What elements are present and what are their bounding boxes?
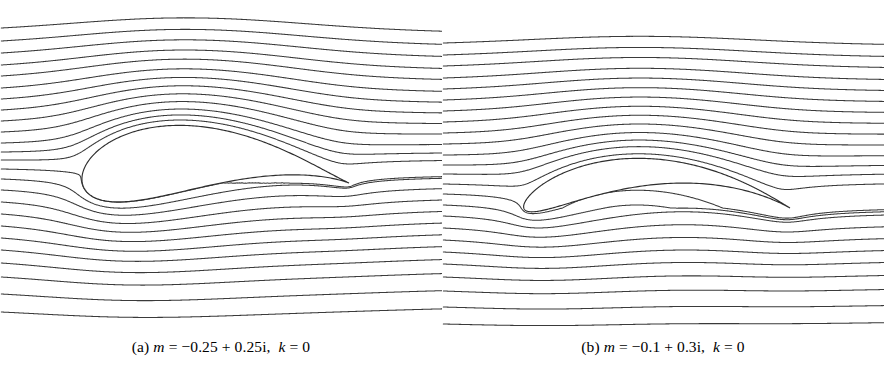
panel-b-caption-label: (b)	[581, 338, 599, 355]
streamline	[1, 247, 442, 262]
streamline	[1, 94, 442, 124]
streamline	[443, 323, 884, 326]
panel-b-caption-value-k: 0	[737, 338, 745, 355]
streamline	[1, 29, 442, 44]
panel-a-caption-value-m: −0.25 + 0.25i,	[181, 338, 270, 355]
streamline	[1, 200, 442, 224]
panel-a-plot	[0, 0, 442, 340]
panel-a-caption-var-k: k	[278, 338, 285, 355]
panel-b-caption-var-k: k	[713, 338, 720, 355]
streamline	[1, 309, 442, 318]
streamline	[1, 50, 442, 68]
streamline	[443, 276, 884, 281]
streamline	[443, 306, 884, 309]
panel-a-caption: (a) m = −0.25 + 0.25i, k = 0	[0, 338, 442, 357]
streamline	[443, 106, 884, 123]
streamline	[1, 223, 442, 242]
streamline	[443, 225, 884, 238]
streamline	[1, 40, 442, 57]
panel-a-streamline-canvas	[0, 0, 442, 340]
panel-a-caption-eq1: =	[169, 338, 178, 355]
streamline	[443, 47, 884, 56]
panel-b-caption-value-m: −0.1 + 0.3i,	[632, 338, 705, 355]
streamline	[443, 88, 884, 102]
streamline	[443, 57, 884, 67]
streamline-figure: (a) m = −0.25 + 0.25i, k = 0 (b) m = −0.…	[0, 0, 884, 387]
streamline	[1, 260, 442, 273]
streamline	[443, 237, 884, 247]
panel-b-caption: (b) m = −0.1 + 0.3i, k = 0	[442, 338, 884, 357]
streamline	[1, 211, 442, 232]
panel-a-caption-eq2: =	[289, 338, 298, 355]
panel-a-caption-label: (a)	[132, 338, 150, 355]
panel-b-airfoil	[524, 158, 790, 211]
streamline	[443, 78, 884, 90]
streamline	[1, 18, 442, 31]
streamline	[1, 102, 442, 135]
streamline	[1, 274, 442, 286]
panel-b-streamline-canvas	[442, 0, 884, 340]
panel-b: (b) m = −0.1 + 0.3i, k = 0	[442, 0, 884, 387]
streamline	[443, 36, 884, 44]
panel-b-caption-eq1: =	[619, 338, 628, 355]
streamline	[443, 250, 884, 258]
panel-a-caption-value-k: 0	[302, 338, 310, 355]
streamline	[1, 291, 442, 301]
panel-b-plot	[442, 0, 884, 340]
panel-a-airfoil	[82, 125, 349, 202]
panel-b-caption-eq2: =	[724, 338, 733, 355]
streamline	[443, 262, 884, 268]
streamline	[1, 59, 442, 79]
streamline	[443, 290, 884, 294]
panel-a: (a) m = −0.25 + 0.25i, k = 0	[0, 0, 442, 387]
streamline	[443, 68, 884, 79]
panel-b-caption-var-m: m	[604, 338, 615, 355]
panel-a-caption-var-m: m	[153, 338, 164, 355]
streamline	[443, 190, 884, 218]
streamline	[443, 124, 884, 145]
